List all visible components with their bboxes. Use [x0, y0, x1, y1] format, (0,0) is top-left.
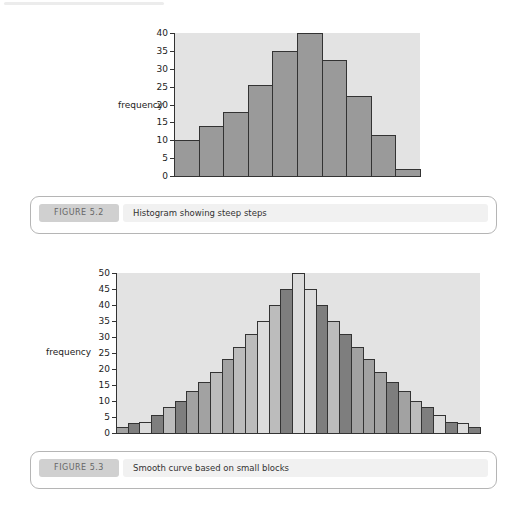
y-tick: [112, 305, 116, 306]
y-axis-label: frequency: [46, 347, 91, 357]
y-tick-label: 15: [146, 117, 168, 127]
y-tick: [112, 353, 116, 354]
y-axis-label: frequency: [118, 100, 163, 110]
y-axis: [174, 33, 175, 177]
y-tick: [170, 158, 174, 159]
y-tick: [170, 33, 174, 34]
y-axis: [116, 273, 117, 434]
histogram-bar: [199, 126, 225, 177]
y-tick: [170, 122, 174, 123]
y-tick-label: 40: [146, 28, 168, 38]
y-tick-label: 5: [88, 412, 110, 422]
y-tick-label: 10: [88, 396, 110, 406]
figure-caption-5-2: FIGURE 5.2 Histogram showing steep steps: [30, 196, 497, 234]
y-tick: [112, 433, 116, 434]
y-tick: [112, 337, 116, 338]
figure-caption-text: Smooth curve based on small blocks: [123, 459, 488, 477]
y-tick: [112, 385, 116, 386]
histogram-bar: [248, 85, 274, 177]
y-tick-label: 10: [146, 135, 168, 145]
y-tick: [170, 51, 174, 52]
y-tick-label: 45: [88, 284, 110, 294]
page-header-residue: [0, 0, 260, 10]
histogram-bar: [346, 96, 372, 177]
y-tick-label: 25: [88, 348, 110, 358]
histogram-bar: [174, 140, 200, 177]
y-tick-label: 15: [88, 380, 110, 390]
figure-caption-5-3: FIGURE 5.3 Smooth curve based on small b…: [30, 451, 497, 489]
y-tick-label: 25: [146, 82, 168, 92]
y-tick-label: 30: [146, 64, 168, 74]
y-tick-label: 0: [146, 171, 168, 181]
y-tick: [112, 369, 116, 370]
y-tick-label: 35: [146, 46, 168, 56]
figure-label: FIGURE 5.2: [39, 204, 119, 222]
histogram-bar: [322, 60, 348, 177]
histogram-bar: [297, 33, 323, 177]
y-tick-label: 20: [88, 364, 110, 374]
y-tick: [170, 105, 174, 106]
y-tick-label: 0: [88, 428, 110, 438]
y-tick: [112, 289, 116, 290]
histogram-bar: [272, 51, 298, 177]
y-tick: [112, 401, 116, 402]
y-tick: [170, 140, 174, 141]
histogram-bar: [371, 135, 397, 177]
y-tick: [112, 273, 116, 274]
figure-caption-text: Histogram showing steep steps: [123, 204, 488, 222]
x-axis: [112, 433, 480, 434]
histogram-bar: [223, 112, 249, 177]
y-tick: [170, 176, 174, 177]
y-tick-label: 40: [88, 300, 110, 310]
y-tick-label: 35: [88, 316, 110, 326]
figure-label: FIGURE 5.3: [39, 459, 119, 477]
y-tick: [170, 69, 174, 70]
y-tick: [112, 417, 116, 418]
y-tick-label: 50: [88, 268, 110, 278]
x-axis: [170, 176, 420, 177]
y-tick: [170, 87, 174, 88]
y-tick: [112, 321, 116, 322]
y-tick-label: 30: [88, 332, 110, 342]
y-tick-label: 5: [146, 153, 168, 163]
